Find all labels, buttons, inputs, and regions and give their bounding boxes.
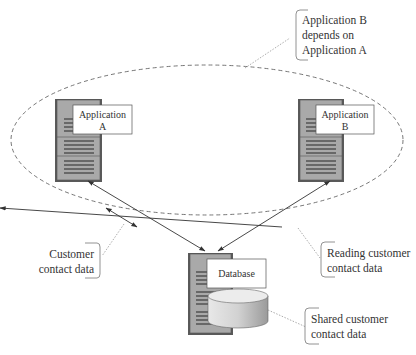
dependency-connector (245, 38, 290, 68)
database-label: Database (218, 268, 255, 279)
customer-contact-connector (102, 224, 124, 256)
server-application-a[interactable]: Application A (55, 99, 132, 182)
shared-contact-callout: Shared customer contact data (311, 313, 388, 340)
application-a-label-line1: Application (79, 109, 126, 120)
edge-app-a-database (88, 181, 205, 251)
customer-contact-callout: Customer contact data (39, 248, 94, 275)
customer-contact-flow-arrow (106, 208, 137, 227)
reading-contact-connector (298, 228, 320, 258)
svg-text:contact data: contact data (311, 328, 366, 340)
svg-text:Shared customer: Shared customer (311, 313, 388, 325)
svg-text:Reading customer: Reading customer (327, 247, 411, 260)
svg-text:contact data: contact data (39, 263, 94, 275)
database-cylinder-icon (208, 289, 268, 328)
svg-text:depends on: depends on (302, 29, 354, 42)
svg-text:contact data: contact data (327, 262, 382, 274)
architecture-diagram: Application A Application B Database (0, 0, 416, 355)
reading-contact-callout: Reading customer contact data (327, 247, 411, 274)
application-b-label-line2: B (342, 121, 349, 132)
svg-text:Customer: Customer (49, 248, 94, 260)
svg-text:Application B: Application B (302, 14, 367, 27)
svg-text:Application A: Application A (302, 44, 368, 57)
dependency-callout: Application B depends on Application A (302, 14, 368, 57)
edge-app-b-database (218, 181, 330, 251)
server-application-b[interactable]: Application B (298, 99, 374, 182)
application-a-label-line2: A (99, 121, 107, 132)
application-b-label-line1: Application (321, 109, 368, 120)
shared-contact-connector (268, 310, 306, 327)
